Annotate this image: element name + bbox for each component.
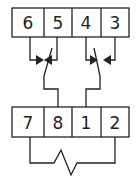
- wiring-diagram: 6 5 4 3 7 8 1 2: [0, 0, 139, 181]
- arrow-left-icon: [103, 55, 111, 65]
- pin-label: 3: [110, 13, 121, 33]
- pin-label: 4: [81, 13, 92, 33]
- right-switch: [86, 37, 115, 107]
- pin-label: 2: [110, 113, 121, 133]
- pin-label: 5: [53, 13, 64, 33]
- pin-label: 1: [81, 113, 92, 133]
- pin-label: 8: [53, 113, 64, 133]
- left-switch: [30, 37, 58, 107]
- pin-label: 7: [23, 113, 34, 133]
- pin-label: 6: [23, 13, 34, 33]
- resistor-loop: [30, 137, 115, 175]
- arrow-right-icon: [36, 55, 44, 65]
